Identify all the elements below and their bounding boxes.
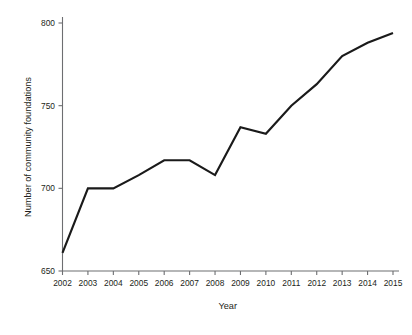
- x-tick-label: 2009: [231, 278, 250, 288]
- x-tick-label: 2014: [358, 278, 377, 288]
- x-tick-label: 2007: [180, 278, 199, 288]
- y-tick-label: 800: [41, 18, 55, 28]
- x-axis: 2002200320042005200620072008200920102011…: [53, 271, 402, 288]
- y-axis: 650700750800: [41, 17, 62, 276]
- x-tick-label: 2008: [206, 278, 225, 288]
- x-tick-label: 2003: [79, 278, 98, 288]
- y-tick-label: 750: [41, 101, 55, 111]
- x-tick-label: 2005: [129, 278, 148, 288]
- x-tick-label: 2011: [282, 278, 300, 288]
- data-line-series-0: [63, 33, 394, 253]
- y-tick-label: 700: [41, 183, 55, 193]
- line-chart-figure: 650700750800 200220032004200520062007200…: [0, 0, 412, 335]
- x-tick-label: 2013: [333, 278, 352, 288]
- x-tick-label: 2004: [104, 278, 123, 288]
- x-tick-label: 2010: [257, 278, 276, 288]
- y-tick-label: 650: [41, 266, 55, 276]
- x-axis-title: Year: [218, 301, 237, 311]
- x-tick-label: 2015: [384, 278, 403, 288]
- data-series-group: [63, 33, 394, 253]
- chart-canvas: 650700750800 200220032004200520062007200…: [0, 0, 412, 335]
- y-axis-title: Number of community foundations: [23, 77, 33, 217]
- x-tick-label: 2012: [307, 278, 326, 288]
- x-tick-label: 2006: [155, 278, 174, 288]
- x-tick-label: 2002: [53, 278, 72, 288]
